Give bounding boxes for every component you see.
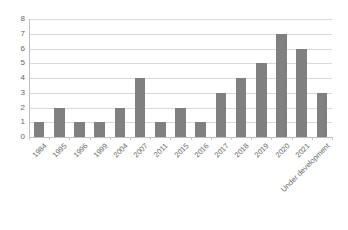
x-category-label: 1984 <box>31 142 48 159</box>
x-tick-mark <box>332 137 333 140</box>
x-tick-mark <box>191 137 192 140</box>
bar-chart: 012345678 198419951996199920042007201120… <box>0 0 348 230</box>
x-category-label: 2015 <box>173 142 190 159</box>
bar <box>296 49 307 138</box>
x-tick-mark <box>49 137 50 140</box>
x-tick-mark <box>271 137 272 140</box>
x-category-label: 1995 <box>51 142 68 159</box>
y-tick-label: 1 <box>21 118 25 126</box>
x-tick-mark <box>170 137 171 140</box>
bar <box>317 93 328 137</box>
x-tick-mark <box>130 137 131 140</box>
x-tick-mark <box>231 137 232 140</box>
y-tick-label: 8 <box>21 15 25 23</box>
x-category-label: 2011 <box>153 142 170 159</box>
x-category-label: 2016 <box>193 142 210 159</box>
x-tick-mark <box>90 137 91 140</box>
bar <box>276 34 287 137</box>
x-tick-mark <box>69 137 70 140</box>
x-axis-line <box>29 137 332 138</box>
y-tick-label: 3 <box>21 89 25 97</box>
x-tick-mark <box>292 137 293 140</box>
x-tick-mark <box>312 137 313 140</box>
bar <box>216 93 227 137</box>
x-tick-mark <box>211 137 212 140</box>
bar <box>256 63 267 137</box>
y-tick-label: 7 <box>21 30 25 38</box>
bar <box>195 122 206 137</box>
y-tick-label: 0 <box>21 133 25 141</box>
bar <box>175 108 186 138</box>
x-tick-mark <box>251 137 252 140</box>
x-category-label: 2020 <box>274 142 291 159</box>
x-category-label: 2018 <box>233 142 250 159</box>
y-tick-label: 5 <box>21 59 25 67</box>
y-tick-label: 6 <box>21 45 25 53</box>
x-tick-mark <box>110 137 111 140</box>
bar <box>74 122 85 137</box>
bar <box>34 122 45 137</box>
x-category-label: 1996 <box>72 142 89 159</box>
x-category-label: 2019 <box>253 142 270 159</box>
x-tick-mark <box>29 137 30 140</box>
x-category-label: 1999 <box>92 142 109 159</box>
bar <box>236 78 247 137</box>
bar <box>54 108 65 138</box>
bar <box>155 122 166 137</box>
bar <box>94 122 105 137</box>
bar <box>115 108 126 138</box>
x-category-label: 2004 <box>112 142 129 159</box>
x-category-label: 2017 <box>213 142 230 159</box>
bars-layer <box>29 19 332 137</box>
bar <box>135 78 146 137</box>
x-tick-mark <box>150 137 151 140</box>
y-tick-label: 4 <box>21 74 25 82</box>
y-tick-label: 2 <box>21 104 25 112</box>
x-category-label: 2007 <box>132 142 149 159</box>
